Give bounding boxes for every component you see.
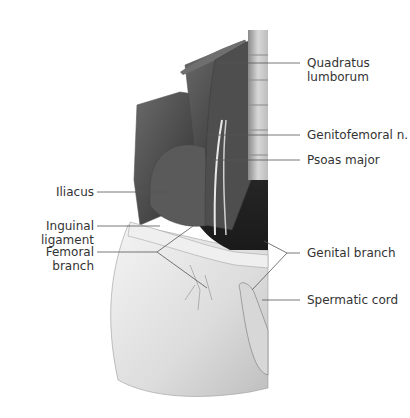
label-genital-branch: Genital branch <box>307 246 396 260</box>
label-line: Inguinal <box>41 219 94 233</box>
anatomy-figure: Quadratus lumborum Genitofemoral n. Psoa… <box>0 0 410 418</box>
label-inguinal-ligament: Inguinal ligament <box>41 219 94 247</box>
label-iliacus: Iliacus <box>56 185 94 199</box>
label-line: Femoral <box>46 245 94 259</box>
label-line: branch <box>46 259 94 273</box>
label-spermatic-cord: Spermatic cord <box>307 293 398 307</box>
label-quadratus-lumborum: Quadratus lumborum <box>307 56 370 84</box>
label-femoral-branch: Femoral branch <box>46 245 94 273</box>
label-psoas-major: Psoas major <box>307 153 380 167</box>
label-line: Quadratus <box>307 56 370 70</box>
label-line: lumborum <box>307 70 370 84</box>
label-genitofemoral-n: Genitofemoral n. <box>307 128 408 142</box>
